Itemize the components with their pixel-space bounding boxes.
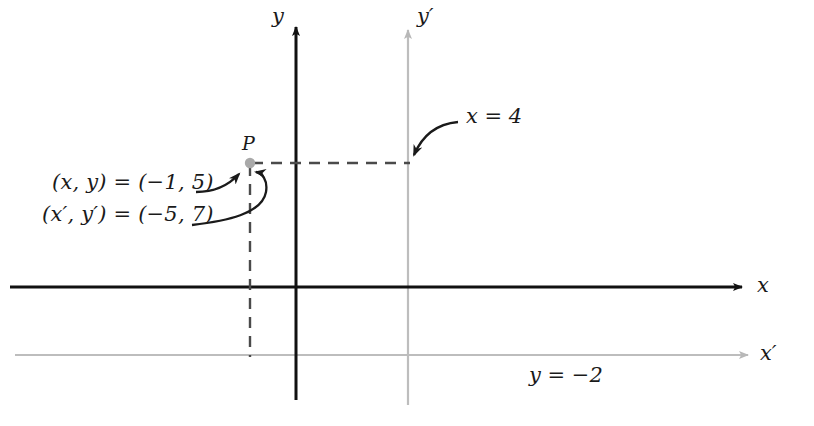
x-equals-4-arrow: [414, 122, 458, 155]
x-prime-axis-label: x′: [760, 343, 777, 364]
point-p-label: P: [242, 134, 255, 153]
coord-xy-label: (x, y) = (−1, 5): [52, 172, 214, 193]
point-p-marker: [245, 158, 255, 168]
x-equals-4-label: x = 4: [466, 106, 522, 127]
y-prime-axis-label: y′: [417, 6, 434, 27]
x-axis-label: x: [757, 275, 769, 296]
projection-lines-group: [250, 163, 410, 357]
coord-xy-prime-label: (x′, y′) = (−5, 7): [42, 204, 214, 225]
y-equals-minus-2-label: y = −2: [529, 365, 603, 386]
y-axis-label: y: [272, 6, 284, 27]
translated-axes-figure: y y′ x x′ P (x, y) = (−1, 5) (x′, y′) = …: [0, 0, 814, 426]
annotation-arrows-group: [192, 122, 458, 225]
